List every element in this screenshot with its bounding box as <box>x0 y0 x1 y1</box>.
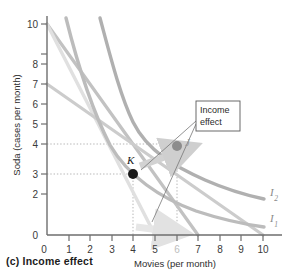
x-tick-label-2: 2 <box>87 244 93 255</box>
y-axis-title: Soda (cases per month) <box>11 74 22 175</box>
x-tick-label-5: 5 <box>152 244 158 255</box>
callout-line-2: effect <box>200 117 222 127</box>
point-j-marker <box>172 141 182 151</box>
y-tick-label-6: 6 <box>32 99 38 110</box>
point-k-label: K <box>126 154 135 166</box>
income-effect-callout[interactable]: Income effect <box>196 101 240 131</box>
y-tick-label-2: 2 <box>32 189 38 200</box>
x-tick-label-4: 4 <box>130 244 136 255</box>
y-tick-label-5: 5 <box>32 119 38 130</box>
x-tick-label-1: 1 <box>66 244 72 255</box>
x-tick-label-6: 6 <box>174 244 180 255</box>
y-tick-label-0: 0 <box>32 230 38 241</box>
callout-line-1: Income <box>200 105 230 115</box>
income-effect-figure: 10 8 7 6 5 4 3 2 0 0 1 2 3 <box>0 0 288 278</box>
income-effect-chart: 10 8 7 6 5 4 3 2 0 0 1 2 3 <box>0 0 288 278</box>
x-tick-label-9: 9 <box>238 244 244 255</box>
point-k-marker <box>128 169 138 179</box>
x-tick-label-7: 7 <box>195 244 201 255</box>
x-tick-label-10: 10 <box>257 244 269 255</box>
y-tick-label-7: 7 <box>32 79 38 90</box>
income-effect-arrow-lower <box>136 227 160 230</box>
y-tick-label-3: 3 <box>32 169 38 180</box>
y-tick-label-8: 8 <box>32 59 38 70</box>
figure-caption: (c) Income effect <box>6 255 93 267</box>
x-axis-title: Movies (per month) <box>134 258 216 269</box>
x-tick-label-0: 0 <box>41 244 47 255</box>
x-tick-label-8: 8 <box>217 244 223 255</box>
y-tick-label-4: 4 <box>32 139 38 150</box>
y-tick-label-10: 10 <box>27 19 39 30</box>
x-tick-label-3: 3 <box>109 244 115 255</box>
